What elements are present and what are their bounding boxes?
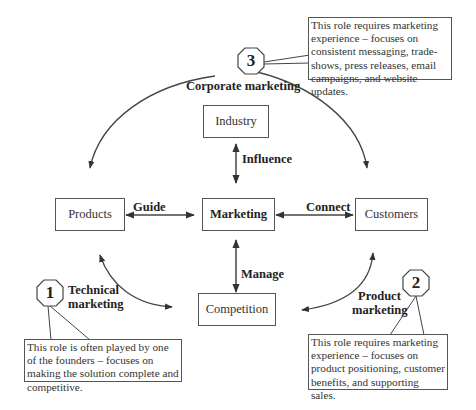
corporate-marketing-note: This role requires marketing experience … <box>308 17 452 80</box>
node-customers: Customers <box>355 198 428 231</box>
product-marketing-label-2: marketing <box>352 303 408 317</box>
node-products: Products <box>55 198 125 231</box>
technical-marketing-note: This role is often played by one of the … <box>24 339 182 382</box>
role-3-number: 3 <box>238 48 264 74</box>
technical-marketing-label-2: marketing <box>68 297 124 311</box>
technical-marketing-label-1: Technical <box>68 283 119 297</box>
corporate-marketing-label: Corporate marketing <box>186 79 300 93</box>
product-marketing-note: This role requires marketing experience … <box>308 334 448 390</box>
node-marketing: Marketing <box>202 198 275 231</box>
influence-label: Influence <box>242 152 292 166</box>
connect-label: Connect <box>306 200 350 214</box>
node-industry: Industry <box>203 105 269 138</box>
manage-label: Manage <box>241 267 284 281</box>
role-2-number: 2 <box>403 270 429 296</box>
role-1-number: 1 <box>37 280 63 306</box>
guide-label: Guide <box>133 200 166 214</box>
node-competition: Competition <box>198 293 276 326</box>
product-marketing-label-1: Product <box>358 289 401 303</box>
